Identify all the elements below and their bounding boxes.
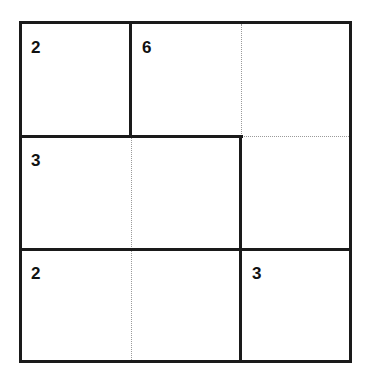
inner-line bbox=[131, 136, 132, 249]
cage-clue: 3 bbox=[31, 152, 40, 169]
inner-line bbox=[131, 249, 132, 360]
inner-line bbox=[241, 136, 349, 137]
cell-r1-c1[interactable] bbox=[131, 136, 241, 249]
inner-line bbox=[241, 24, 242, 136]
puzzle-grid: 2 6 3 2 3 bbox=[19, 21, 352, 363]
cage-border bbox=[22, 248, 349, 251]
cell-r0-c2[interactable] bbox=[241, 24, 349, 136]
cage-clue: 2 bbox=[31, 265, 40, 282]
cell-r1-c2[interactable] bbox=[241, 136, 349, 249]
cage-border bbox=[22, 135, 243, 138]
cage-clue: 6 bbox=[142, 39, 151, 56]
cage-clue: 3 bbox=[252, 265, 261, 282]
cell-r2-c1[interactable] bbox=[131, 249, 241, 360]
cage-border bbox=[129, 24, 132, 137]
cage-clue: 2 bbox=[31, 39, 40, 56]
